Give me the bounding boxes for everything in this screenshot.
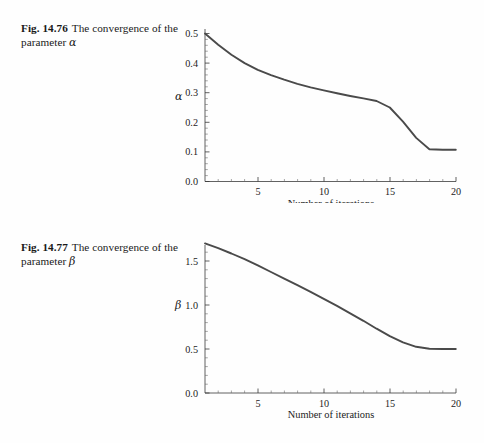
x-tick-label: 15 [385, 398, 395, 409]
figure-plot-alpha: 0.5 0.4 0.3 0.2 0.1 0.0 α [168, 18, 474, 203]
y-tick-label: 0.5 [185, 28, 198, 39]
y-tick-label: 0.0 [185, 176, 198, 187]
x-tick-label: 20 [451, 186, 461, 197]
x-axis-label: Number of iterations [288, 409, 375, 420]
y-tick-label: 0.5 [185, 344, 198, 355]
y-tick-label: 0.4 [185, 58, 198, 69]
figure-caption-2: Fig. 14.77The convergence of the paramet… [21, 240, 189, 269]
y-minor-ticks [205, 252, 208, 384]
y-axis-label: β [174, 299, 181, 312]
y-tick-label: 0.3 [185, 87, 198, 98]
figure-caption-symbol-1: α [69, 36, 76, 49]
beta-curve [205, 243, 456, 349]
figure-number-2: Fig. 14.77 [21, 241, 68, 253]
x-tick-label: 5 [255, 398, 260, 409]
x-major-ticks [258, 177, 456, 182]
x-tick-label: 10 [319, 398, 329, 409]
figure-caption-symbol-2: β [69, 255, 75, 268]
figure-caption-1: Fig. 14.76The convergence of the paramet… [21, 21, 189, 50]
y-tick-label: 1.0 [185, 300, 198, 311]
y-axis-label: α [175, 90, 183, 103]
beta-convergence-chart: 1.5 1.0 0.5 0.0 β [168, 236, 474, 428]
figure-number-1: Fig. 14.76 [21, 22, 68, 34]
x-tick-label: 5 [255, 186, 260, 197]
y-major-ticks [205, 261, 210, 393]
y-tick-label: 0.2 [185, 117, 198, 128]
x-tick-label: 15 [385, 186, 395, 197]
alpha-convergence-chart: 0.5 0.4 0.3 0.2 0.1 0.0 α [168, 18, 474, 203]
document-page: Fig. 14.76The convergence of the paramet… [0, 0, 484, 443]
y-tick-label: 0.1 [185, 146, 198, 157]
y-tick-label: 1.5 [185, 256, 198, 267]
alpha-curve [205, 34, 456, 150]
y-major-ticks [205, 34, 210, 182]
y-minor-ticks [205, 39, 208, 175]
x-tick-label: 20 [451, 398, 461, 409]
figure-plot-beta: 1.5 1.0 0.5 0.0 β [168, 236, 474, 428]
y-tick-label: 0.0 [185, 388, 198, 399]
x-axis-label: Number of iterations [288, 198, 375, 204]
x-major-ticks [258, 389, 456, 394]
x-tick-label: 10 [319, 186, 329, 197]
